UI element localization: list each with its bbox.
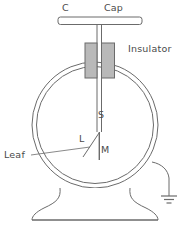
insulator-block-left: [85, 43, 97, 78]
leaf-leader-line: [31, 147, 90, 155]
figure-canvas: C Cap Insulator S L M Leaf: [0, 0, 185, 230]
label-cap: Cap: [104, 3, 123, 13]
electroscope-diagram: [0, 0, 185, 230]
jar-inner-wall: [37, 67, 154, 184]
ground-wire: [152, 162, 169, 196]
label-m: M: [101, 145, 109, 155]
label-insulator: Insulator: [128, 44, 172, 54]
label-leaf: Leaf: [4, 150, 25, 160]
base-stand: [32, 188, 158, 220]
gold-leaf: [83, 133, 99, 157]
label-l: L: [79, 134, 85, 144]
insulator-block-right: [102, 43, 115, 78]
label-s: S: [98, 110, 104, 120]
jar-outer-wall: [32, 62, 158, 188]
cap-plate: [58, 17, 142, 25]
label-c: C: [62, 3, 69, 13]
